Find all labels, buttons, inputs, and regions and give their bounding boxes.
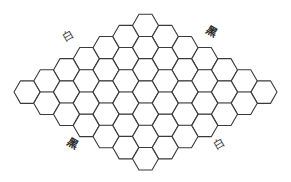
hex-board bbox=[0, 0, 291, 182]
